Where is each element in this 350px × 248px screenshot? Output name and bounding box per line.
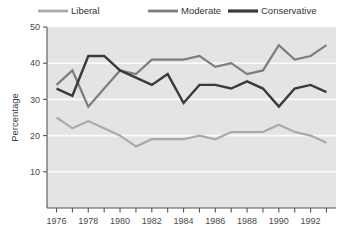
x-tick-label: 1990: [269, 216, 289, 226]
y-tick-label: 10: [30, 167, 40, 177]
legend-label-moderate: Moderate: [181, 5, 221, 16]
x-axis: 197619781980198219841986198819901992: [47, 208, 336, 226]
x-tick-label: 1988: [237, 216, 257, 226]
y-tick-label: 20: [30, 131, 40, 141]
x-tick-label: 1976: [47, 216, 67, 226]
plot-background: [47, 27, 336, 208]
x-tick-label: 1982: [142, 216, 162, 226]
y-axis: 1020304050: [30, 22, 47, 208]
y-tick-label: 50: [30, 22, 40, 32]
chart-container: LiberalModerateConservative 1020304050 1…: [0, 0, 350, 248]
x-tick-label: 1986: [205, 216, 225, 226]
line-chart: LiberalModerateConservative 1020304050 1…: [0, 0, 350, 248]
x-tick-label: 1978: [78, 216, 98, 226]
y-tick-label: 30: [30, 95, 40, 105]
y-axis-title: Percentage: [9, 93, 20, 142]
legend: LiberalModerateConservative: [38, 5, 316, 16]
x-tick-label: 1984: [174, 216, 194, 226]
y-tick-label: 40: [30, 58, 40, 68]
legend-label-conservative: Conservative: [261, 5, 316, 16]
x-tick-label: 1980: [110, 216, 130, 226]
legend-label-liberal: Liberal: [71, 5, 100, 16]
x-tick-label: 1992: [301, 216, 321, 226]
